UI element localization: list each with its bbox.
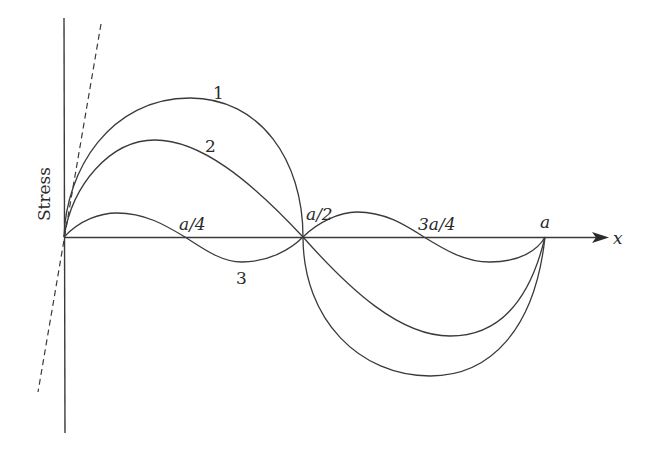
x-axis-label: x (613, 228, 623, 248)
stress-diagram: Stress x 1 2 3 a/4 a/2 3a/4 a (0, 0, 655, 456)
tick-label-a-half: a/2 (306, 204, 333, 224)
tick-label-a: a (540, 212, 550, 232)
curve-2-label: 2 (205, 136, 216, 156)
y-axis-label: Stress (34, 167, 54, 221)
tick-label-three-quarter: 3a/4 (418, 214, 456, 234)
curve-3-label: 3 (236, 268, 247, 288)
tick-label-a-quarter: a/4 (179, 214, 206, 234)
curve-1-label: 1 (213, 83, 224, 103)
